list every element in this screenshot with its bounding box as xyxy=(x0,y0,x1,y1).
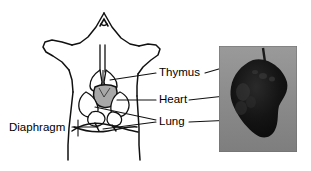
anatomy-figure: Thymus Heart Lung Diaphragm xyxy=(0,0,311,171)
snout-mark xyxy=(100,19,108,26)
label-lung: Lung xyxy=(159,116,185,128)
label-heart: Heart xyxy=(159,94,187,106)
trachea xyxy=(100,45,105,72)
specimen-photograph xyxy=(219,46,297,152)
label-diaphragm: Diaphragm xyxy=(9,122,65,134)
specimen-photo-svg xyxy=(219,46,297,152)
leader-line-thymus xyxy=(110,73,156,80)
label-thymus: Thymus xyxy=(159,67,200,79)
